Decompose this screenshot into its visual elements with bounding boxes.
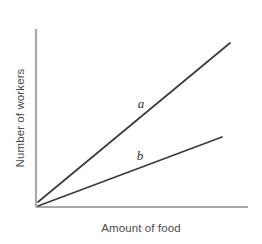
chart-figure: a b Amount of food Number of workers: [0, 0, 262, 244]
series-line-b: [38, 137, 222, 206]
x-axis-title: Amount of food: [101, 222, 180, 234]
series-label-a: a: [138, 96, 145, 111]
series-label-b: b: [137, 148, 144, 163]
y-axis-title: Number of workers: [14, 68, 26, 167]
line-chart-svg: a b Amount of food Number of workers: [0, 0, 262, 244]
series-line-a: [38, 43, 230, 202]
